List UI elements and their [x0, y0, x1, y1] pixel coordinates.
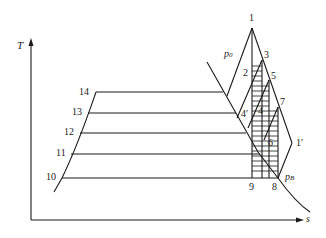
s-axis-arrow-icon — [296, 218, 304, 223]
pb-label: pB — [285, 172, 294, 182]
point-12-label: 12 — [64, 127, 74, 137]
point-14-label: 14 — [79, 87, 89, 97]
point-9-label: 9 — [249, 182, 254, 192]
point-11-label: 11 — [56, 148, 66, 158]
point-4prime-label: 4′ — [241, 109, 248, 119]
point-5-label: 5 — [271, 71, 276, 81]
point-7-label: 7 — [280, 97, 285, 107]
point-8-label: 8 — [272, 182, 277, 192]
point-4-label: 4 — [258, 106, 263, 116]
point-1prime-label: 1′ — [296, 138, 303, 148]
saturated-vapor-line — [207, 62, 310, 212]
ts-diagram: T s p0 pB 1 2 3 4 4′ 5 6 7 1′ 8 9 10 11 … — [0, 0, 326, 238]
p0-label: p0 — [224, 49, 233, 59]
point-6-label: 6 — [268, 138, 273, 148]
t-axis-arrow-icon — [29, 38, 34, 46]
t-axis-label: T — [17, 40, 23, 51]
s-axis-label: s — [306, 214, 310, 224]
point-13-label: 13 — [72, 107, 82, 117]
point-10-label: 10 — [46, 172, 56, 182]
point-3-label: 3 — [264, 50, 269, 60]
hatched-area — [252, 66, 278, 171]
point-2-label: 2 — [243, 68, 248, 78]
diagram-graphics — [0, 0, 326, 238]
isobar-p0 — [227, 28, 252, 96]
point-1-label: 1 — [249, 13, 254, 23]
line-7 — [264, 107, 278, 140]
